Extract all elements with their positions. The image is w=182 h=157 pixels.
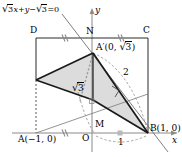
segment-label-sqrt3: √3 <box>72 83 84 93</box>
eq-body: x+y− <box>13 5 35 14</box>
sqrt-glyph-aprime: √3 <box>120 42 132 52</box>
a-prime-tail: ) <box>132 42 136 52</box>
y-axis-arrow <box>90 8 95 14</box>
point-label-C: C <box>143 26 150 35</box>
point-label-A-prime: A′(0, √3) <box>96 42 135 52</box>
sqrt-glyph-eq2: √3 <box>36 4 47 14</box>
point-label-A: A(−1, 0) <box>18 135 56 144</box>
tick-square-OB <box>118 131 123 136</box>
segment-label-2: 2 <box>123 68 129 77</box>
eq-tail: =0 <box>47 5 59 14</box>
point-label-D: D <box>30 26 37 35</box>
radicand-aprime: 3 <box>125 41 132 52</box>
a-prime-lead: A′(0, <box>96 42 120 52</box>
point-label-N: N <box>86 27 94 36</box>
line-equation-label: √3x+y−√3=0 <box>2 4 59 14</box>
sqrt-glyph-seg: √3 <box>72 83 84 93</box>
point-label-O: O <box>82 134 89 143</box>
point-label-B: B(1, 0) <box>150 124 181 133</box>
geometry-figure: √3x+y−√3=0 y x D C N M O A′(0, √3) A(−1,… <box>0 0 182 157</box>
sqrt-glyph-eq: √3 <box>2 4 13 14</box>
point-label-M: M <box>95 120 104 129</box>
radicand-seg: 3 <box>77 82 84 93</box>
segment-label-1: 1 <box>118 138 124 147</box>
y-axis-label: y <box>95 6 100 15</box>
x-axis-label: x <box>172 136 177 145</box>
